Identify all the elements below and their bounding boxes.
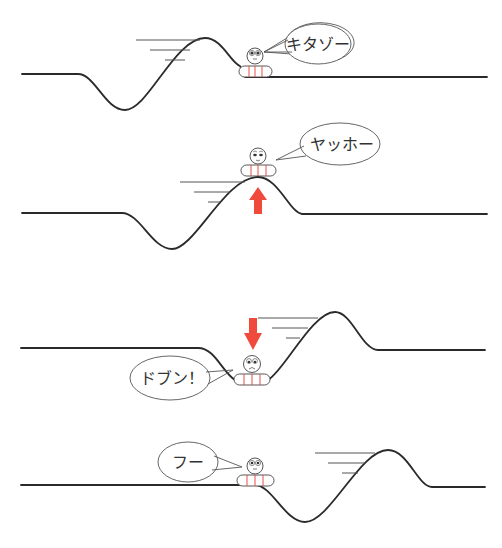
speech-bubble: フー	[158, 442, 242, 482]
speech-text: キタゾー	[286, 35, 350, 54]
eye-icon	[254, 361, 256, 363]
eye-icon	[257, 462, 260, 465]
speech-bubble: ヤッホー	[276, 123, 380, 165]
character-head	[244, 356, 261, 373]
wave-diagram: キタゾー ヤッホー	[0, 0, 502, 548]
speech-text: ドブン！	[140, 369, 204, 388]
eye-icon	[251, 462, 254, 465]
arrow-down-icon	[244, 318, 262, 350]
eye-icon	[259, 154, 263, 156]
eye-icon	[250, 51, 253, 54]
speed-lines	[258, 318, 318, 338]
panel-2: ヤッホー	[22, 123, 487, 249]
character-on-float	[241, 148, 276, 176]
eye-icon	[253, 154, 257, 156]
speech-text: フー	[172, 453, 204, 472]
character-head	[250, 148, 266, 164]
character-on-float	[234, 356, 270, 386]
eye-icon	[248, 361, 250, 363]
panel-1: キタゾー	[22, 23, 487, 110]
speech-bubble: キタゾー	[264, 23, 354, 64]
panel-4: フー	[21, 442, 485, 522]
panel-3: ドブン！	[21, 312, 485, 400]
speech-bubble: ドブン！	[130, 356, 233, 400]
eye-icon	[256, 51, 259, 54]
character-head	[247, 458, 263, 474]
character-head	[247, 48, 263, 64]
character-on-float	[237, 458, 274, 486]
arrow-up-icon	[249, 187, 267, 214]
speed-lines	[180, 182, 245, 202]
speech-text: ヤッホー	[310, 135, 374, 154]
